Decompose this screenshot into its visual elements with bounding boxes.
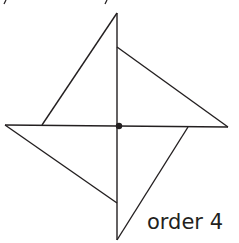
right-blade-edge: [117, 47, 228, 127]
clipped-text-fragment: [105, 0, 107, 4]
center-dot: [116, 123, 122, 129]
left-blade-edge: [5, 125, 117, 203]
clipped-text-fragment: [4, 0, 6, 4]
order-caption: order 4: [147, 212, 223, 233]
pinwheel-diagram: [0, 0, 239, 243]
top-blade-edge: [42, 13, 117, 125]
